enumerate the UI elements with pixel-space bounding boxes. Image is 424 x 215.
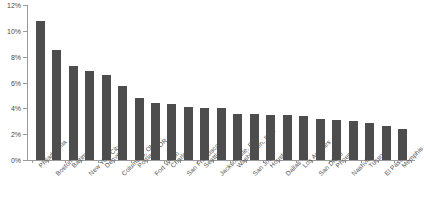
- y-axis-tick: [23, 31, 27, 32]
- bars-layer: [27, 5, 415, 160]
- y-axis-tick-label: 4%: [0, 105, 21, 112]
- x-axis-line: [27, 160, 415, 161]
- y-axis-tick: [23, 5, 27, 6]
- y-axis-tick-label: 2%: [0, 131, 21, 138]
- y-axis-tick-label: 10%: [0, 28, 21, 35]
- y-axis-tick: [23, 134, 27, 135]
- y-axis-tick: [23, 160, 27, 161]
- y-axis-tick-label: 0%: [0, 157, 21, 164]
- plot-area: [27, 5, 415, 160]
- bar: [69, 66, 78, 160]
- x-axis-labels: PhiladelphiaBostonBaltimoreNew York City…: [27, 163, 420, 215]
- y-axis-tick-label: 8%: [0, 54, 21, 61]
- y-axis-tick-label: 6%: [0, 80, 21, 87]
- y-axis-tick: [23, 57, 27, 58]
- y-axis-tick: [23, 108, 27, 109]
- bar: [102, 75, 111, 160]
- y-axis-tick: [23, 83, 27, 84]
- y-axis-tick-label: 12%: [0, 2, 21, 9]
- bar: [36, 21, 45, 161]
- x-axis-tick-label: Dallas: [284, 159, 302, 177]
- bar: [299, 116, 308, 160]
